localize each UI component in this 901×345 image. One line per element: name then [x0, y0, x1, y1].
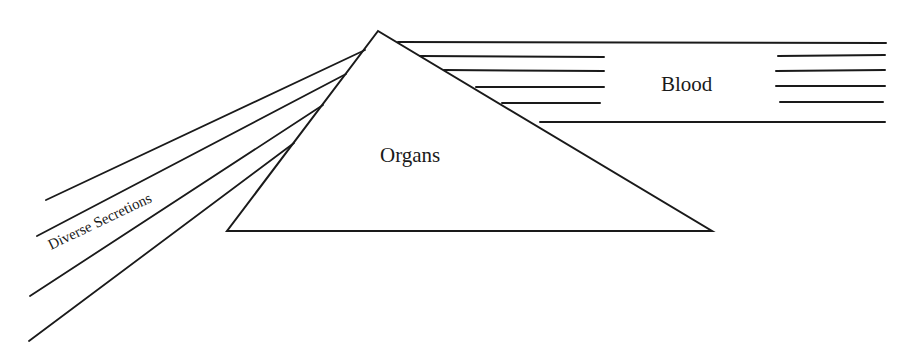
blood-right-stub	[776, 70, 885, 71]
secretion-line	[46, 50, 365, 200]
secretion-line	[30, 105, 323, 296]
organs-label: Organs	[380, 143, 440, 167]
blood-left-stub	[444, 70, 604, 71]
secretion-lines	[29, 50, 365, 341]
blood-stream-lines	[398, 42, 886, 122]
blood-left-stub	[420, 56, 604, 57]
organ-triangle	[227, 31, 712, 231]
blood-top-line	[398, 42, 886, 43]
blood-right-stub	[778, 55, 885, 56]
blood-label: Blood	[661, 72, 713, 96]
organs-blood-secretions-diagram: Organs Blood Diverse Secretions	[0, 0, 901, 345]
secretions-label: Diverse Secretions	[45, 190, 154, 253]
secretion-line	[37, 74, 346, 236]
